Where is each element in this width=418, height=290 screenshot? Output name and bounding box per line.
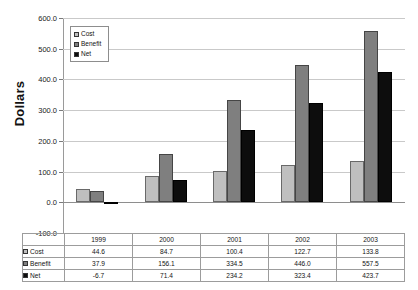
bar-benefit-2002 bbox=[295, 65, 309, 202]
table-row: Benefit37.9156.1334.5446.0557.5 bbox=[23, 258, 405, 270]
bar-cost-2003 bbox=[350, 161, 364, 202]
table-column-header-2000: 2000 bbox=[133, 234, 201, 246]
table-corner-cell bbox=[23, 234, 65, 246]
bar-net-1999 bbox=[104, 202, 118, 204]
table-cell-benefit-2003: 557.5 bbox=[337, 258, 405, 270]
y-axis-tick-label: 400.0 bbox=[38, 75, 57, 84]
bar-benefit-1999 bbox=[90, 191, 104, 203]
bar-group bbox=[200, 18, 268, 233]
legend-label-cost: Cost bbox=[81, 30, 94, 38]
bar-cost-2002 bbox=[281, 165, 295, 203]
bar-benefit-2001 bbox=[227, 100, 241, 203]
legend-label-net: Net bbox=[81, 50, 91, 58]
chart-legend: Cost Benefit Net bbox=[70, 26, 109, 62]
bar-group bbox=[337, 18, 405, 233]
table-row-label: Benefit bbox=[30, 260, 51, 267]
y-axis-title: Dollars bbox=[12, 49, 27, 159]
table-swatch-benefit-icon bbox=[23, 261, 28, 266]
bar-cost-2001 bbox=[213, 171, 227, 202]
plot-area: 600.0500.0400.0300.0200.0100.00.0-100.0 bbox=[63, 18, 405, 233]
table-row-header-cost: Cost bbox=[23, 246, 65, 258]
y-axis-tick-label: 200.0 bbox=[38, 136, 57, 145]
table-cell-benefit-2000: 156.1 bbox=[133, 258, 201, 270]
bar-group bbox=[131, 18, 199, 233]
table-column-header-2002: 2002 bbox=[269, 234, 337, 246]
legend-swatch-benefit-icon bbox=[74, 42, 79, 47]
bar-cost-1999 bbox=[76, 189, 90, 203]
legend-item-cost: Cost bbox=[74, 29, 106, 39]
table-cell-cost-2001: 100.4 bbox=[201, 246, 269, 258]
y-axis-tick-label: 500.0 bbox=[38, 44, 57, 53]
bar-group bbox=[268, 18, 336, 233]
table-header-row: 19992000200120022003 bbox=[23, 234, 405, 246]
table-row: Net-6.771.4234.2323.4423.7 bbox=[23, 270, 405, 282]
bar-benefit-2000 bbox=[159, 154, 173, 202]
table-column-header-2001: 2001 bbox=[201, 234, 269, 246]
table-cell-benefit-1999: 37.9 bbox=[65, 258, 133, 270]
legend-item-net: Net bbox=[74, 49, 106, 59]
y-axis-tick-label: 600.0 bbox=[38, 14, 57, 23]
table-cell-cost-1999: 44.6 bbox=[65, 246, 133, 258]
table-cell-net-2001: 234.2 bbox=[201, 270, 269, 282]
bar-net-2000 bbox=[173, 180, 187, 202]
bar-net-2001 bbox=[241, 130, 255, 202]
table-row-header-benefit: Benefit bbox=[23, 258, 65, 270]
table-column-header-1999: 1999 bbox=[65, 234, 133, 246]
table-swatch-cost-icon bbox=[23, 249, 28, 254]
y-axis-tick-label: 100.0 bbox=[38, 167, 57, 176]
legend-item-benefit: Benefit bbox=[74, 39, 106, 49]
bar-cost-2000 bbox=[145, 176, 159, 202]
table-row-header-net: Net bbox=[23, 270, 65, 282]
legend-swatch-net-icon bbox=[74, 52, 79, 57]
bar-net-2003 bbox=[378, 72, 392, 202]
table-cell-cost-2003: 133.8 bbox=[337, 246, 405, 258]
bar-net-2002 bbox=[309, 103, 323, 202]
table-cell-net-1999: -6.7 bbox=[65, 270, 133, 282]
table-cell-cost-2002: 122.7 bbox=[269, 246, 337, 258]
table-cell-net-2000: 71.4 bbox=[133, 270, 201, 282]
table-cell-benefit-2002: 446.0 bbox=[269, 258, 337, 270]
table-row-label: Cost bbox=[30, 248, 44, 255]
table-cell-net-2003: 423.7 bbox=[337, 270, 405, 282]
legend-label-benefit: Benefit bbox=[81, 40, 101, 48]
y-axis-tick-label: 300.0 bbox=[38, 106, 57, 115]
chart-figure: Dollars 600.0500.0400.0300.0200.0100.00.… bbox=[0, 0, 418, 290]
table-cell-cost-2000: 84.7 bbox=[133, 246, 201, 258]
table-row: Cost44.684.7100.4122.7133.8 bbox=[23, 246, 405, 258]
legend-swatch-cost-icon bbox=[74, 32, 79, 37]
table-cell-net-2002: 323.4 bbox=[269, 270, 337, 282]
table-cell-benefit-2001: 334.5 bbox=[201, 258, 269, 270]
bar-benefit-2003 bbox=[364, 31, 378, 202]
chart-data-table: 19992000200120022003Cost44.684.7100.4122… bbox=[22, 233, 405, 282]
table-row-label: Net bbox=[30, 272, 40, 279]
y-axis-tick-label: 0.0 bbox=[47, 198, 57, 207]
table-column-header-2003: 2003 bbox=[337, 234, 405, 246]
table-swatch-net-icon bbox=[23, 273, 28, 278]
